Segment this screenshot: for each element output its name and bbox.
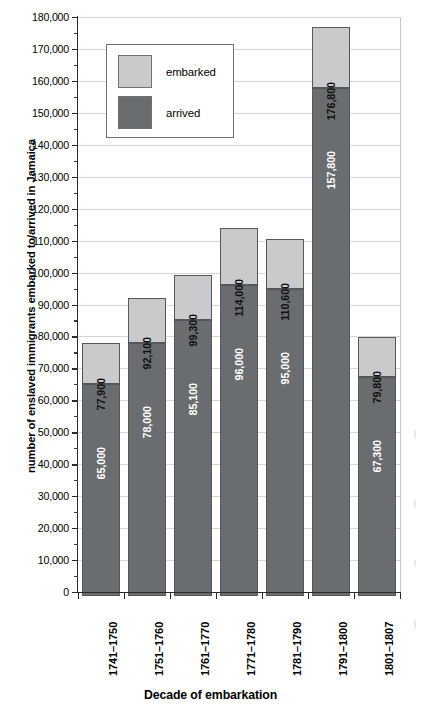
bar-segment-embarked: 176,800 <box>312 27 350 88</box>
y-axis-line <box>77 16 78 593</box>
y-axis-title: number of enslaved immigrants embarked t… <box>25 56 37 556</box>
y-axis-tick-label: 90,000 <box>38 299 69 311</box>
x-axis: 1741–17501751–17601761–17701771–17801781… <box>78 592 400 682</box>
y-axis-tick-label: 100,000 <box>32 267 69 279</box>
bar-segment-arrived: 67,300 <box>358 377 396 596</box>
bar-segment-arrived: 157,800 <box>312 88 350 596</box>
bar-value-label-arrived: 85,100 <box>187 383 199 415</box>
bar-value-label-arrived: 65,000 <box>95 447 107 479</box>
bar-value-label-arrived: 157,800 <box>325 151 337 189</box>
y-axis-tick-label: 30,000 <box>38 490 69 502</box>
x-tick <box>124 592 125 599</box>
scan-artifact <box>414 500 416 507</box>
legend-swatch-embarked <box>118 55 152 88</box>
x-axis-tick-label: 1761–1770 <box>199 622 211 676</box>
x-axis-tick-label: 1751–1760 <box>153 622 165 676</box>
legend-label-embarked: embarked <box>166 66 216 78</box>
x-tick <box>308 592 309 599</box>
bar-group: 67,30079,800 <box>358 17 396 592</box>
y-axis-tick-label: 130,000 <box>32 171 69 183</box>
bar-value-label-embarked: 110,600 <box>279 283 291 321</box>
bar-segment-arrived: 96,000 <box>220 285 258 596</box>
x-tick <box>216 592 217 599</box>
legend: embarked arrived <box>106 44 234 138</box>
x-axis-tick-label: 1781–1790 <box>291 622 303 676</box>
bar-segment-arrived: 85,100 <box>174 320 212 596</box>
bar-value-label-arrived: 78,000 <box>141 406 153 438</box>
bar-segment-embarked: 92,100 <box>128 298 166 343</box>
bar-value-label-arrived: 95,000 <box>279 352 291 384</box>
scan-artifact <box>414 560 416 566</box>
scan-artifact <box>414 430 416 438</box>
x-tick <box>78 592 79 599</box>
bar-value-label-embarked: 79,800 <box>371 371 383 403</box>
bar-segment-embarked: 99,300 <box>174 275 212 320</box>
y-axis-tick-label: 160,000 <box>32 75 69 87</box>
y-axis-tick-label: 140,000 <box>32 139 69 151</box>
x-tick <box>262 592 263 599</box>
plot-right-edge <box>400 17 401 592</box>
y-axis-tick-label: 170,000 <box>32 43 69 55</box>
y-axis-tick-label: 20,000 <box>38 522 69 534</box>
y-axis-tick-label: 180,000 <box>32 11 69 23</box>
legend-item-arrived: arrived <box>118 96 200 129</box>
bar-segment-embarked: 114,000 <box>220 228 258 286</box>
bar-group: 95,000110,600 <box>266 17 304 592</box>
legend-item-embarked: embarked <box>118 55 216 88</box>
y-axis-tick-label: 70,000 <box>38 362 69 374</box>
legend-swatch-arrived <box>118 96 152 129</box>
bar-segment-embarked: 79,800 <box>358 337 396 377</box>
x-axis-tick-label: 1771–1780 <box>245 622 257 676</box>
y-axis-tick-label: 60,000 <box>38 394 69 406</box>
legend-label-arrived: arrived <box>166 107 200 119</box>
bar-group: 157,800176,800 <box>312 17 350 592</box>
bar-value-label-arrived: 96,000 <box>233 348 245 380</box>
y-axis-tick-label: 110,000 <box>33 235 69 247</box>
bar-value-label-embarked: 176,800 <box>325 82 337 120</box>
bar-value-label-arrived: 67,300 <box>371 440 383 472</box>
x-tick <box>354 592 355 599</box>
bar-segment-arrived: 65,000 <box>82 384 120 596</box>
bar-segment-embarked: 77,900 <box>82 343 120 384</box>
scan-artifact <box>414 620 416 629</box>
x-axis-title: Decade of embarkation <box>0 688 421 702</box>
bar-value-label-embarked: 99,300 <box>187 314 199 346</box>
y-axis-tick-label: 80,000 <box>38 330 69 342</box>
x-tick <box>170 592 171 599</box>
y-axis-tick-label: 120,000 <box>32 203 69 215</box>
bar-chart: number of enslaved immigrants embarked t… <box>0 0 421 714</box>
y-axis-tick-label: 50,000 <box>38 426 69 438</box>
bar-value-label-embarked: 114,000 <box>233 279 245 317</box>
bar-value-label-embarked: 92,100 <box>141 337 153 369</box>
y-axis-tick-label: 40,000 <box>38 458 69 470</box>
y-axis-tick-label: 0 <box>63 586 69 598</box>
x-axis-tick-label: 1741–1750 <box>107 622 119 676</box>
x-axis-tick-label: 1801–1807 <box>383 622 395 676</box>
x-tick <box>400 592 401 599</box>
y-axis-tick-label: 150,000 <box>32 107 69 119</box>
y-axis-tick-label: 10,000 <box>38 554 69 566</box>
bar-segment-arrived: 95,000 <box>266 289 304 596</box>
bar-segment-embarked: 110,600 <box>266 239 304 289</box>
bar-value-label-embarked: 77,900 <box>95 378 107 410</box>
bar-segment-arrived: 78,000 <box>128 343 166 596</box>
x-axis-tick-label: 1791–1800 <box>337 622 349 676</box>
